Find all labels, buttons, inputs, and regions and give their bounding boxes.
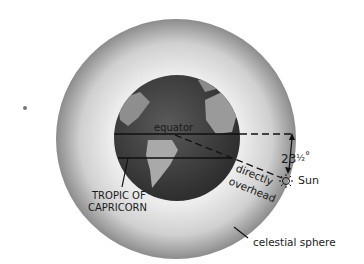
equator-label: equator xyxy=(154,122,194,133)
sun-label: Sun xyxy=(298,174,319,187)
celestial-sphere-diagram: equator 23½° Sun directly overhead TROPI… xyxy=(0,0,364,264)
tropic-label-line2: CAPRICORN xyxy=(88,202,147,213)
tropic-label-line1: TROPIC OF xyxy=(91,190,146,201)
stray-dot xyxy=(23,106,27,110)
celestial-sphere-label: celestial sphere xyxy=(253,236,336,248)
angle-label: 23½° xyxy=(281,150,310,166)
earth-globe xyxy=(114,75,240,201)
